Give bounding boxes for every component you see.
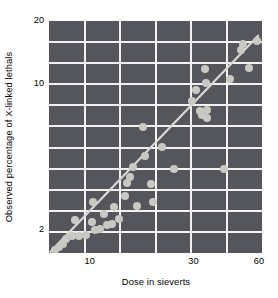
data-point: [129, 163, 137, 171]
data-point: [115, 215, 123, 223]
data-point: [203, 114, 211, 122]
x-tick-label: 10: [75, 256, 105, 266]
x-tick-label-box: 10: [75, 256, 105, 269]
y-tick-label: 20: [18, 15, 44, 25]
data-point: [239, 40, 247, 48]
data-point: [108, 220, 116, 228]
data-point: [202, 79, 210, 87]
y-axis-title: Observed percentage of X-linked lethals: [2, 21, 16, 253]
data-point: [88, 218, 96, 226]
x-tick-label-box: 60: [244, 256, 274, 269]
x-axis-title: Dose in sieverts: [49, 276, 263, 287]
data-point: [253, 37, 261, 45]
y-tick-label-box: 20: [18, 15, 44, 27]
data-point: [188, 97, 196, 105]
x-tick-label-box: 30: [178, 256, 208, 269]
scatter-plot-figure: Observed percentage of X-linked lethals …: [0, 0, 278, 298]
data-point: [226, 75, 234, 83]
data-point: [133, 202, 141, 210]
data-point: [245, 64, 253, 72]
data-point: [203, 106, 211, 114]
y-tick-label: 10: [18, 78, 44, 88]
y-tick-label-box: 2: [18, 224, 44, 236]
x-tick-label: 60: [244, 256, 274, 266]
regression-line: [49, 21, 262, 253]
y-tick-label: 2: [18, 224, 44, 234]
y-tick-label-box: 10: [18, 78, 44, 90]
data-point: [141, 152, 149, 160]
x-tick-label: 30: [178, 256, 208, 266]
plot-area: [49, 21, 262, 253]
data-point: [100, 210, 108, 218]
